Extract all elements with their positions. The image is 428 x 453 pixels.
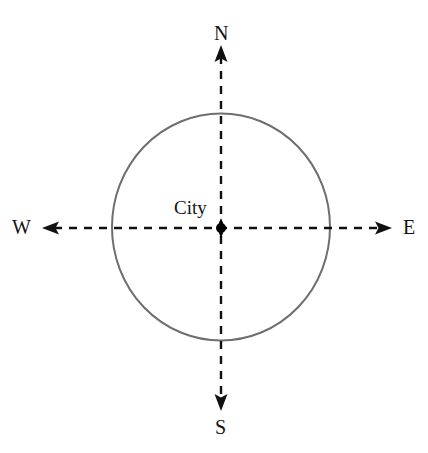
east-arrowhead-icon bbox=[375, 222, 392, 235]
compass-diagram: N S W E City bbox=[0, 0, 428, 453]
south-arrowhead-icon bbox=[215, 394, 228, 411]
east-label: E bbox=[403, 217, 415, 237]
city-label: City bbox=[174, 198, 207, 217]
diagram-canvas bbox=[0, 0, 428, 453]
north-label: N bbox=[214, 23, 228, 43]
west-label: W bbox=[12, 217, 31, 237]
city-center-dot-flare bbox=[217, 218, 225, 238]
south-label: S bbox=[215, 417, 226, 437]
